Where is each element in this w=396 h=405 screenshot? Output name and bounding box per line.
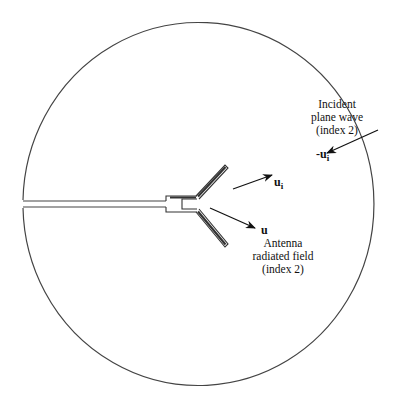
incident-label: Incident plane wave (index 2) xyxy=(298,98,376,137)
ui-base: u xyxy=(274,175,281,189)
radiated-label-line1: Antenna xyxy=(240,237,326,250)
radiated-label-line2: radiated field xyxy=(240,250,326,263)
feed-line xyxy=(23,201,166,207)
incident-label-line1: Incident xyxy=(298,98,376,111)
u-base: u xyxy=(261,223,268,237)
radiated-label: Antenna radiated field (index 2) xyxy=(240,237,326,276)
neg-ui-label: -ui xyxy=(316,147,329,163)
antenna-arm-lower xyxy=(196,209,228,247)
diagram-canvas xyxy=(0,0,396,405)
radiated-label-line3: (index 2) xyxy=(240,263,326,276)
ui-sub: i xyxy=(281,181,284,191)
antenna-arm-upper xyxy=(196,165,228,199)
incident-label-line2: plane wave xyxy=(298,111,376,124)
incident-label-line3: (index 2) xyxy=(298,124,376,137)
ui-arrow xyxy=(233,175,272,189)
ui-label: ui xyxy=(274,175,283,191)
neg-ui-base: -u xyxy=(316,147,327,161)
antenna-body xyxy=(166,196,197,212)
u-arrow xyxy=(210,208,255,228)
u-label: u xyxy=(261,223,268,238)
neg-ui-sub: i xyxy=(327,153,330,163)
boundary-circle xyxy=(23,23,374,386)
